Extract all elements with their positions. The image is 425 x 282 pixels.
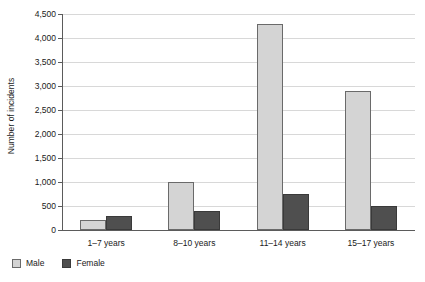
bar-female[interactable] (106, 216, 132, 230)
legend-item-male[interactable]: Male (12, 258, 44, 268)
plot-area: 05001,0001,5002,0002,5003,0003,5004,0004… (62, 14, 415, 231)
bar-female[interactable] (371, 206, 397, 230)
y-tick-label: 0 (51, 225, 56, 235)
y-tick-label: 2,000 (35, 129, 56, 139)
y-tick-label: 1,500 (35, 153, 56, 163)
bar-group (80, 14, 132, 230)
y-axis-line (62, 14, 63, 231)
y-axis-title-text: Number of incidents (6, 78, 16, 155)
bar-group (168, 14, 220, 230)
y-tick-mark (58, 86, 62, 87)
y-tick-mark (58, 230, 62, 231)
bar-group (257, 14, 309, 230)
bar-male[interactable] (168, 182, 194, 230)
y-tick-label: 2,500 (35, 105, 56, 115)
y-axis-title: Number of incidents (0, 0, 22, 232)
x-axis-line (62, 230, 415, 231)
legend-swatch-icon (12, 259, 21, 268)
y-tick-mark (58, 182, 62, 183)
bar-group (345, 14, 397, 230)
category-label: 8–10 years (154, 238, 234, 248)
y-tick-label: 4,500 (35, 9, 56, 19)
y-tick-mark (58, 158, 62, 159)
legend-label: Female (76, 258, 104, 268)
y-tick-label: 1,000 (35, 177, 56, 187)
legend: MaleFemale (12, 258, 105, 268)
bar-male[interactable] (80, 220, 106, 230)
y-tick-label: 3,000 (35, 81, 56, 91)
category-label: 1–7 years (66, 238, 146, 248)
y-tick-mark (58, 38, 62, 39)
y-tick-mark (58, 14, 62, 15)
legend-label: Male (26, 258, 44, 268)
bar-male[interactable] (257, 24, 283, 230)
y-tick-mark (58, 134, 62, 135)
bar-male[interactable] (345, 91, 371, 230)
y-tick-mark (58, 110, 62, 111)
y-tick-label: 500 (42, 201, 56, 211)
legend-swatch-icon (62, 259, 71, 268)
category-label: 11–14 years (243, 238, 323, 248)
category-label: 15–17 years (331, 238, 411, 248)
y-tick-label: 4,000 (35, 33, 56, 43)
y-tick-mark (58, 62, 62, 63)
bar-chart-figure: Number of incidents 05001,0001,5002,0002… (0, 0, 425, 282)
bar-female[interactable] (194, 211, 220, 230)
bar-female[interactable] (283, 194, 309, 230)
y-tick-label: 3,500 (35, 57, 56, 67)
legend-item-female[interactable]: Female (62, 258, 104, 268)
y-tick-mark (58, 206, 62, 207)
